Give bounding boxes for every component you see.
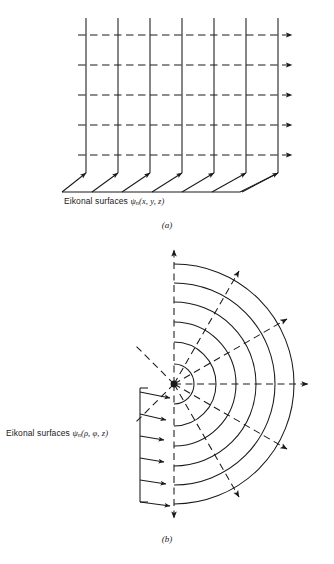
perspective-baseline-planar: [62, 173, 278, 192]
panel-b-caption: (b): [0, 534, 334, 544]
panel-a-label-args: (x, y, z): [139, 196, 164, 206]
eikonal-figure: Eikonal surfaces ψn(x, y, z) (a): [0, 0, 334, 564]
panel-b-label-args: (ρ, φ, z): [81, 428, 108, 438]
collimated-arrows-cylindrical: [140, 392, 170, 506]
panel-a-label: Eikonal surfaces ψn(x, y, z): [64, 196, 164, 206]
collimated-bracket-cylindrical: [140, 388, 148, 502]
panel-a-diagram: [0, 0, 334, 212]
radial-ray-lines-cylindrical: [136, 250, 308, 518]
panel-a-label-prefix: Eikonal surfaces: [64, 196, 128, 206]
panel-a-caption: (a): [0, 220, 334, 230]
panel-b-diagram: [0, 240, 334, 530]
point-source-origin: [171, 381, 178, 388]
panel-b-label: Eikonal surfaces ψn(ρ, φ, z): [6, 428, 108, 438]
ray-lines-planar: [78, 35, 292, 155]
cropped-caption-line: [0, 556, 334, 564]
panel-b-label-prefix: Eikonal surfaces: [6, 428, 70, 438]
